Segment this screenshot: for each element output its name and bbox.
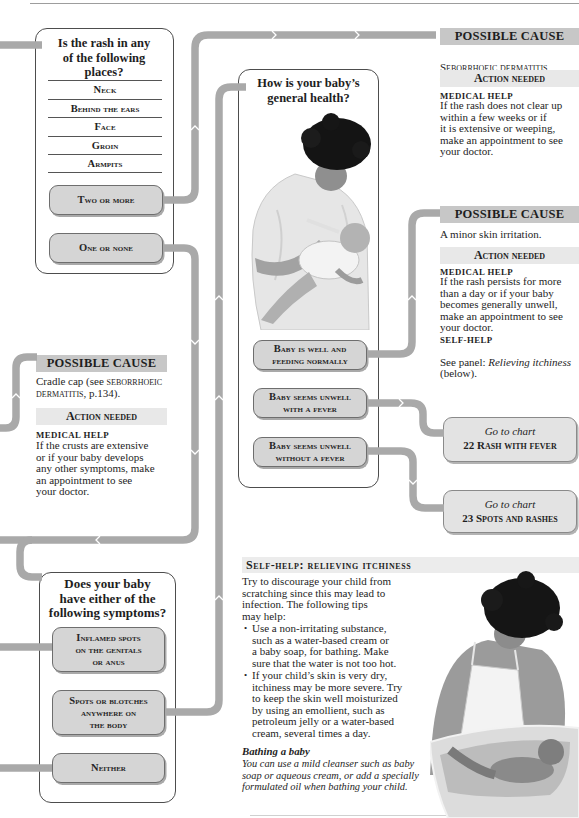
possible-cause-header: POSSIBLE CAUSE — [440, 28, 579, 45]
self-help-text: See panel: Relieving itchiness (below). — [440, 345, 579, 380]
connector-left-to-cradle-cap — [0, 357, 37, 428]
possible-cause-header: POSSIBLE CAUSE — [440, 206, 579, 223]
cause-text: Cradle cap (see seborrhoeic dermatitis, … — [36, 376, 170, 399]
question-title-location: Is the rash in any of the following plac… — [50, 36, 158, 80]
option-baby-well: Baby is well and feeding normally — [253, 340, 367, 370]
bathing-subhead: Bathing a baby — [242, 746, 310, 758]
goto-prefix: Go to chart — [444, 425, 576, 438]
bathing-photo — [430, 570, 579, 818]
self-help-label: SELF-HELP — [440, 335, 492, 345]
option-inflamed-spots: Inflamed spots on the genitals or anus — [52, 627, 165, 672]
feeding-photo — [247, 110, 373, 330]
self-help-panel-ref: Relieving itchiness — [488, 356, 571, 368]
option-neither: Neither — [52, 753, 165, 783]
place-item: Groin — [48, 136, 162, 155]
place-item: Behind the ears — [48, 99, 162, 118]
action-needed-header: Action needed — [440, 70, 579, 87]
goto-chart-22: Go to chart 22 Rash with fever — [443, 417, 577, 462]
option-unwell-without-fever: Baby seems unwell without a fever — [253, 437, 367, 467]
cause-prefix: Cradle cap (see — [36, 375, 107, 387]
possible-cause-header: POSSIBLE CAUSE — [36, 355, 167, 372]
mother-feeding-baby-image — [247, 110, 373, 330]
medical-help-text: If the rash persists for more than a day… — [440, 276, 579, 334]
self-help-bullet: Use a non-irritating substance, such as … — [244, 623, 438, 669]
chart-number: 22 — [463, 439, 474, 451]
cause-text: A minor skin irritation. — [440, 229, 579, 241]
connector-spots-to-health — [165, 87, 246, 712]
top-rule — [30, 3, 579, 4]
self-help-prefix: See panel: — [440, 356, 488, 368]
option-one-or-none: One or none — [49, 233, 163, 263]
connector-to-symptoms-box — [20, 540, 42, 577]
question-title-health: How is your baby’s general health? — [248, 76, 369, 105]
goto-title: 22 Rash with fever — [444, 438, 576, 452]
question-title-symptoms: Does your baby have either of the follow… — [42, 577, 173, 621]
chart-page: Is the rash in any of the following plac… — [0, 0, 579, 818]
option-unwell-with-fever: Baby seems unwell with a fever — [253, 388, 367, 418]
place-item: Face — [48, 117, 162, 136]
cause-suffix: , p.134). — [84, 387, 121, 399]
place-item: Neck — [48, 80, 162, 99]
medical-help-text: If the crusts are extensive or if your b… — [36, 440, 170, 498]
self-help-suffix: (below). — [440, 367, 477, 379]
place-item: Armpits — [48, 154, 162, 173]
option-spots-or-blotches: Spots or blotches anywhere on the body — [52, 690, 165, 735]
bathing-note: You can use a mild cleanser such as baby… — [242, 758, 432, 793]
action-needed-header: Action needed — [440, 247, 579, 264]
goto-prefix: Go to chart — [444, 498, 576, 511]
self-help-bullet: If your child’s skin is very dry, itchin… — [244, 670, 438, 740]
action-needed-header: Action needed — [36, 408, 167, 425]
chart-number: 23 — [462, 512, 473, 524]
chart-name: Spots and rashes — [476, 512, 558, 524]
option-two-or-more: Two or more — [49, 185, 163, 215]
mother-bathing-baby-image — [430, 570, 579, 818]
chart-name: Rash with fever — [477, 439, 557, 451]
self-help-intro: Try to discourage your child from scratc… — [242, 576, 427, 622]
medical-help-text: If the rash does not clear up within a f… — [440, 100, 579, 158]
goto-chart-23: Go to chart 23 Spots and rashes — [443, 490, 577, 533]
goto-title: 23 Spots and rashes — [444, 511, 576, 525]
